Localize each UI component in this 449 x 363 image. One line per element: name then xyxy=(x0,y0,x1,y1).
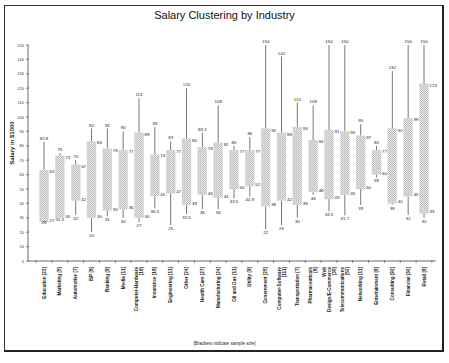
y-tick-label: 10 xyxy=(20,244,25,249)
max-label: 150 xyxy=(420,39,428,44)
x-category-label: ISP [8] xyxy=(89,267,94,282)
range-item: 92783531 xyxy=(103,123,118,223)
box-low-label: 44 xyxy=(224,194,229,199)
range-item: 70674232 xyxy=(71,154,86,221)
min-label: 30 xyxy=(121,219,126,224)
box-low-label: 39 xyxy=(303,201,308,206)
min-label: 36 xyxy=(216,210,221,215)
box-low-label: 48 xyxy=(319,188,324,193)
x-category-label: Automotive [7] xyxy=(73,267,78,300)
max-label: 93 xyxy=(152,121,157,126)
x-category-label: Oil and Gas [11] xyxy=(232,267,237,302)
y-tick-label: 150 xyxy=(17,43,24,48)
range-box xyxy=(372,150,381,174)
max-label: 150 xyxy=(405,39,413,44)
box-low-label: 30 xyxy=(145,214,150,219)
range-box xyxy=(166,150,175,193)
range-item: 1501233330 xyxy=(420,39,438,224)
box-low-label: 36 xyxy=(129,205,134,210)
min-label: 36.5 xyxy=(151,209,160,214)
box-high-label: 77 xyxy=(255,149,260,154)
range-item: 90773630 xyxy=(119,125,134,223)
box-high-label: 77 xyxy=(382,149,387,154)
box-high-label: 92 xyxy=(271,128,276,133)
y-tick-label: 100 xyxy=(17,115,24,120)
range-box xyxy=(150,154,159,196)
range-box xyxy=(230,150,239,189)
min-label: 32 xyxy=(406,216,411,221)
x-category-label: Insurance [18] xyxy=(152,267,157,299)
max-label: 113 xyxy=(136,92,144,97)
min-label: 31 xyxy=(105,217,110,222)
range-box xyxy=(340,131,349,194)
y-tick-label: 80 xyxy=(20,143,25,148)
max-label: 142 xyxy=(278,51,286,56)
box-high-label: 85 xyxy=(192,138,197,143)
min-label: 22 xyxy=(263,230,268,235)
x-category-label: [52] xyxy=(345,267,350,276)
max-label: 95 xyxy=(358,118,363,123)
box-low-label: 38 xyxy=(271,202,276,207)
box-low-label: 50 xyxy=(366,185,371,190)
box-low-label: 35 xyxy=(113,207,118,212)
min-label: 30 xyxy=(422,219,427,224)
range-item: 110933930 xyxy=(293,97,308,224)
range-item: 83774725 xyxy=(166,135,181,231)
range-item: 92833020 xyxy=(87,123,102,239)
box-high-label: 83 xyxy=(97,140,102,145)
min-label: 30 xyxy=(295,219,300,224)
x-category-label: Engineering [11] xyxy=(168,267,173,303)
range-box xyxy=(103,149,112,211)
max-label: 86 xyxy=(247,131,252,136)
range-item: 86775244.9 xyxy=(245,131,260,202)
x-category-label: Government [25] xyxy=(263,267,268,304)
min-label: 44.9 xyxy=(246,197,255,202)
box-low-label: 27 xyxy=(50,218,55,223)
box-high-label: 67 xyxy=(81,164,86,169)
box-low-label: 46 xyxy=(208,191,213,196)
min-label: 43.5 xyxy=(230,199,239,204)
max-label: 150 xyxy=(325,39,333,44)
max-label: 132 xyxy=(389,65,397,70)
y-tick-label: 60 xyxy=(20,172,25,177)
min-label: 31.5 xyxy=(56,217,65,222)
x-category-label: Marketing [5] xyxy=(57,267,62,296)
range-box xyxy=(388,129,397,204)
range-item: 80775043.5 xyxy=(230,140,245,205)
x-category-label: Entertainment [8] xyxy=(374,267,379,305)
box-high-label: 77 xyxy=(129,149,134,154)
x-category-label: Manufacturing [24] xyxy=(216,267,221,309)
box-low-label: 47 xyxy=(176,189,181,194)
y-tick-label: 140 xyxy=(17,57,24,62)
box-high-label: 79 xyxy=(208,146,213,151)
x-category-label: [111] xyxy=(282,267,287,278)
range-item: 82.8632729 xyxy=(40,136,55,225)
box-low-label: 50 xyxy=(240,185,245,190)
box-low-label: 43 xyxy=(335,195,340,200)
box-high-label: 82 xyxy=(224,142,229,147)
box-high-label: 91 xyxy=(335,129,340,134)
range-box xyxy=(198,147,207,195)
x-category-label: Retail [8] xyxy=(422,267,427,287)
y-tick-label: 110 xyxy=(18,100,25,105)
y-tick-label: 50 xyxy=(20,187,25,192)
range-box xyxy=(325,130,334,199)
box-high-label: 74 xyxy=(160,153,165,158)
range-item: 120853932.5 xyxy=(182,82,197,220)
box-high-label: 84 xyxy=(319,139,324,144)
box-high-label: 123 xyxy=(430,83,438,88)
max-label: 90 xyxy=(121,125,126,130)
box-high-label: 90 xyxy=(350,130,355,135)
x-category-label: Other [24] xyxy=(184,267,189,289)
range-item: 89.2794636 xyxy=(198,127,213,216)
min-label: 25 xyxy=(279,226,284,231)
x-category-label: Transportation [7] xyxy=(295,267,300,307)
range-box xyxy=(309,140,318,192)
box-low-label: 33 xyxy=(430,209,435,214)
x-category-label: [8] xyxy=(313,267,318,273)
range-box xyxy=(87,141,96,217)
box-low-label: 40 xyxy=(398,199,403,204)
min-label: 46 xyxy=(311,196,316,201)
plot-series: 82.863272975733031.570674232928330209278… xyxy=(40,39,438,238)
max-label: 80 xyxy=(232,140,237,145)
